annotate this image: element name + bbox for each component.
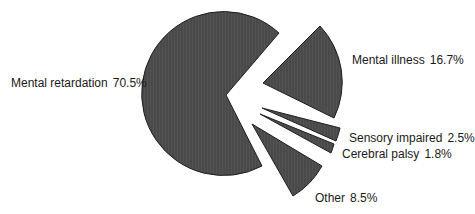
slice-mental-illness <box>263 26 342 118</box>
label-value: 70.5% <box>113 76 147 90</box>
label-name: Sensory impaired <box>349 131 442 145</box>
label-value: 16.7% <box>430 53 464 67</box>
label-name: Other <box>315 191 345 205</box>
label-mental-retardation: Mental retardation70.5% <box>11 76 147 90</box>
label-other: Other8.5% <box>315 191 377 205</box>
label-value: 8.5% <box>350 191 377 205</box>
label-value: 1.8% <box>424 147 451 161</box>
label-sensory-impaired: Sensory impaired2.5% <box>349 131 475 145</box>
label-name: Mental illness <box>352 53 425 67</box>
label-cerebral-palsy: Cerebral palsy1.8% <box>342 147 452 161</box>
label-value: 2.5% <box>447 131 474 145</box>
label-name: Mental retardation <box>11 76 108 90</box>
label-mental-illness: Mental illness16.7% <box>352 53 464 67</box>
label-name: Cerebral palsy <box>342 147 419 161</box>
slice-mental-retardation <box>142 12 279 176</box>
